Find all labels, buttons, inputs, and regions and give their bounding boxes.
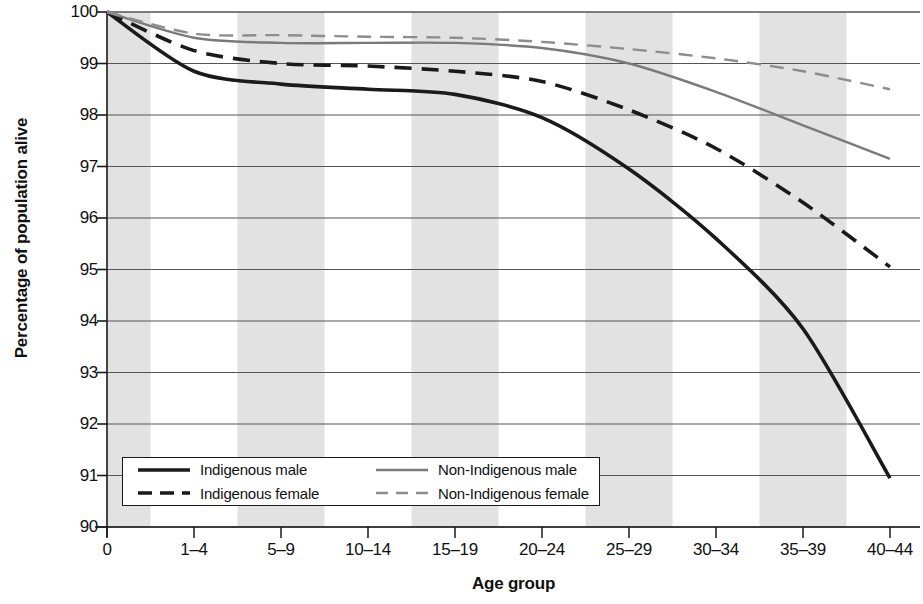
legend-swatch-icon [375, 486, 429, 500]
plot-area [0, 0, 923, 604]
legend-swatch-icon [137, 486, 191, 500]
legend-label: Non-Indigenous female [438, 485, 589, 502]
legend: Indigenous maleNon-Indigenous maleIndige… [122, 457, 600, 506]
legend-label: Non-Indigenous male [438, 461, 577, 478]
legend-label: Indigenous male [200, 461, 307, 478]
legend-entry[interactable]: Indigenous female [123, 485, 361, 502]
legend-entry[interactable]: Non-Indigenous male [361, 461, 599, 478]
chart-figure: Percentage of population alive Age group… [0, 0, 923, 604]
legend-entry[interactable]: Non-Indigenous female [361, 485, 599, 502]
legend-swatch-icon [375, 463, 429, 477]
legend-label: Indigenous female [200, 485, 319, 502]
legend-entry[interactable]: Indigenous male [123, 461, 361, 478]
legend-swatch-icon [137, 463, 191, 477]
